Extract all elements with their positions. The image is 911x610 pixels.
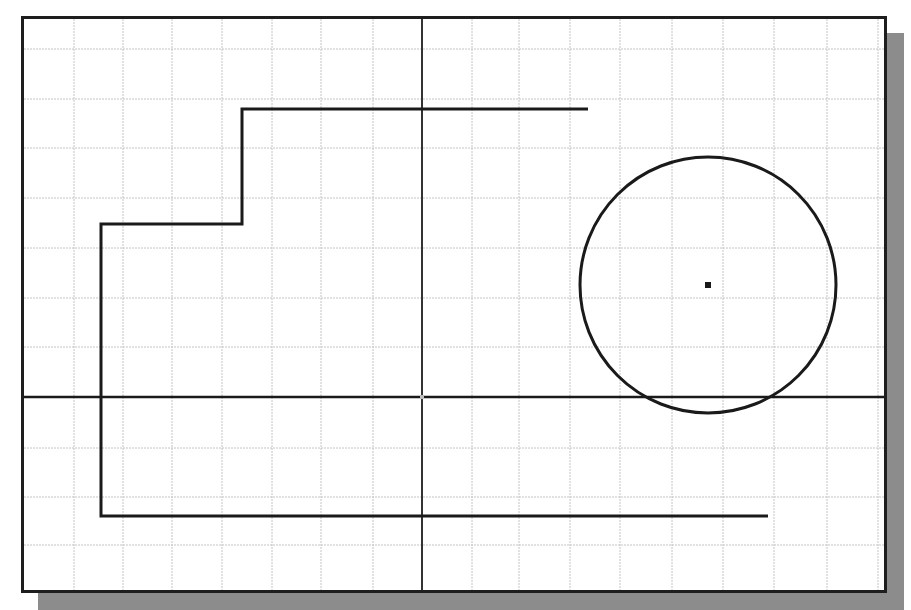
cad-drawing-area: [0, 0, 911, 610]
circle-center-marker-icon[interactable]: [705, 282, 711, 288]
stepped-polyline[interactable]: [101, 109, 768, 516]
origin-marker-icon: [420, 395, 424, 399]
coordinate-axes: [24, 19, 884, 590]
drawing-entities[interactable]: [101, 109, 836, 516]
grid: [24, 19, 884, 590]
drawing-svg[interactable]: [0, 0, 911, 610]
